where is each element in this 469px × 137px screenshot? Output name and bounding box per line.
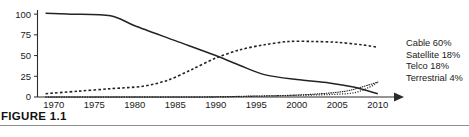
line-chart: 0255075100 19701975198019851990199520002…: [0, 0, 469, 108]
chart-plot-area: 0255075100 19701975198019851990199520002…: [0, 0, 469, 108]
x-axis-arrow-icon: [394, 92, 404, 101]
y-tick-label: 25: [20, 71, 31, 82]
legend-entry-cable: Cable 60%: [406, 38, 469, 50]
x-tick-label: 1995: [246, 99, 267, 108]
caption-divider: [0, 125, 469, 126]
legend-entry-satellite: Satellite 18%: [406, 50, 469, 62]
legend-entry-telco: Telco 18%: [406, 61, 469, 73]
x-axis: 197019751980198519901995200020052010: [38, 92, 405, 108]
x-tick-label: 2010: [367, 99, 388, 108]
y-tick-label: 50: [20, 50, 31, 61]
x-tick-label: 1990: [205, 99, 226, 108]
series-line-cable: [46, 41, 378, 93]
x-tick-label: 1970: [43, 99, 64, 108]
legend: Cable 60% Satellite 18% Telco 18% Terres…: [406, 38, 469, 84]
x-tick-label: 2000: [286, 99, 307, 108]
legend-entry-terrestrial: Terrestrial 4%: [406, 73, 469, 85]
figure-caption-block: FIGURE 1.1: [0, 110, 469, 126]
series-line-terrestrial: [46, 13, 378, 93]
figure-container: 0255075100 19701975198019851990199520002…: [0, 0, 469, 137]
figure-caption: FIGURE 1.1: [0, 110, 469, 122]
x-tick-label: 1985: [165, 99, 186, 108]
data-series-group: [46, 13, 378, 97]
y-tick-label: 100: [15, 9, 31, 20]
y-axis-ticks: 0255075100: [15, 9, 37, 103]
y-tick-label: 0: [26, 91, 31, 102]
x-tick-label: 1980: [124, 99, 145, 108]
y-tick-label: 75: [20, 29, 31, 40]
x-tick-label: 2005: [327, 99, 348, 108]
y-axis: 0255075100: [15, 9, 37, 103]
x-axis-ticks: 197019751980198519901995200020052010: [43, 99, 388, 108]
x-tick-label: 1975: [84, 99, 105, 108]
